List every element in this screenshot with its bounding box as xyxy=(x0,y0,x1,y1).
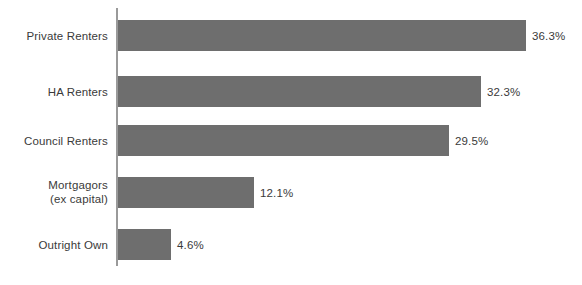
bar-private-renters xyxy=(118,20,526,51)
bar-council-renters xyxy=(118,125,449,156)
category-label-outright-own: Outright Own xyxy=(0,238,108,252)
value-label-ha-renters: 32.3% xyxy=(487,85,520,99)
value-label-private-renters: 36.3% xyxy=(532,29,565,43)
value-label-outright-own: 4.6% xyxy=(177,238,204,252)
bar-mortgagors xyxy=(118,177,254,208)
value-label-mortgagors: 12.1% xyxy=(260,186,293,200)
plot-area: Private Renters 36.3% HA Renters 32.3% C… xyxy=(0,0,582,285)
category-label-mortgagors: Mortgagors (ex capital) xyxy=(0,178,108,206)
value-label-council-renters: 29.5% xyxy=(455,134,488,148)
bar-ha-renters xyxy=(118,76,481,107)
bar-outright-own xyxy=(118,229,171,260)
category-label-private-renters: Private Renters xyxy=(0,29,108,43)
category-label-ha-renters: HA Renters xyxy=(0,85,108,99)
bar-chart: Private Renters 36.3% HA Renters 32.3% C… xyxy=(0,0,582,285)
category-label-council-renters: Council Renters xyxy=(0,134,108,148)
